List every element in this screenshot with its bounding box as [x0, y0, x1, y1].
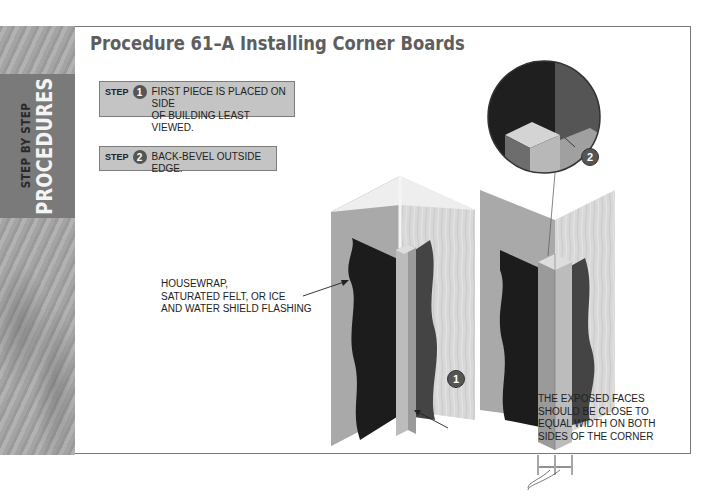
label-line: SHOULD BE CLOSE TO [538, 406, 649, 417]
callout-2-badge: 2 [581, 148, 599, 166]
housewrap-label: HOUSEWRAP, SATURATED FELT, OR ICE AND WA… [161, 278, 312, 316]
label-line: HOUSEWRAP, [161, 278, 228, 289]
label-line: SIDES OF THE CORNER [538, 431, 653, 442]
callout-1-badge: 1 [447, 370, 465, 388]
exposed-faces-label: THE EXPOSED FACES SHOULD BE CLOSE TO EQU… [538, 393, 655, 443]
label-line: EQUAL WIDTH ON BOTH [538, 418, 655, 429]
label-line: SATURATED FELT, OR ICE [161, 291, 285, 302]
label-line: AND WATER SHIELD FLASHING [161, 303, 312, 314]
left-corner-assembly [331, 176, 475, 446]
label-line: THE EXPOSED FACES [538, 393, 645, 404]
